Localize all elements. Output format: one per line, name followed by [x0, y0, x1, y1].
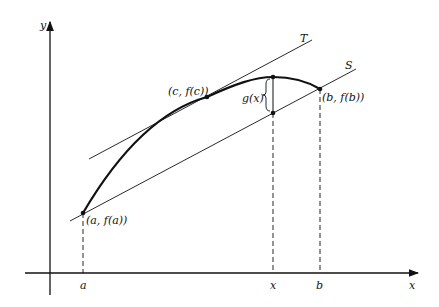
point-c-label: (c, f(c)) — [168, 85, 209, 98]
point-secant-x — [271, 111, 276, 116]
tangent-label: T — [300, 32, 309, 45]
point-top-x — [271, 75, 276, 80]
gap-brace — [263, 79, 270, 111]
x-axis-label: x — [409, 279, 416, 292]
gap-label: g(x) — [242, 92, 264, 105]
tick-label-a: a — [80, 279, 87, 292]
mvt-diagram: y x a x b T S (a, f(a)) (c, f(c)) (b, f(… — [0, 0, 439, 307]
point-b-label: (b, f(b)) — [322, 91, 364, 104]
point-a-label: (a, f(a)) — [86, 214, 127, 227]
secant-label: S — [345, 59, 353, 72]
point-a — [81, 211, 86, 216]
y-axis-label: y — [39, 19, 47, 32]
secant-line-S — [70, 69, 356, 221]
tick-label-x: x — [270, 279, 277, 292]
diagram-canvas: y x a x b T S (a, f(a)) (c, f(c)) (b, f(… — [0, 0, 439, 307]
tick-label-b: b — [316, 279, 323, 292]
